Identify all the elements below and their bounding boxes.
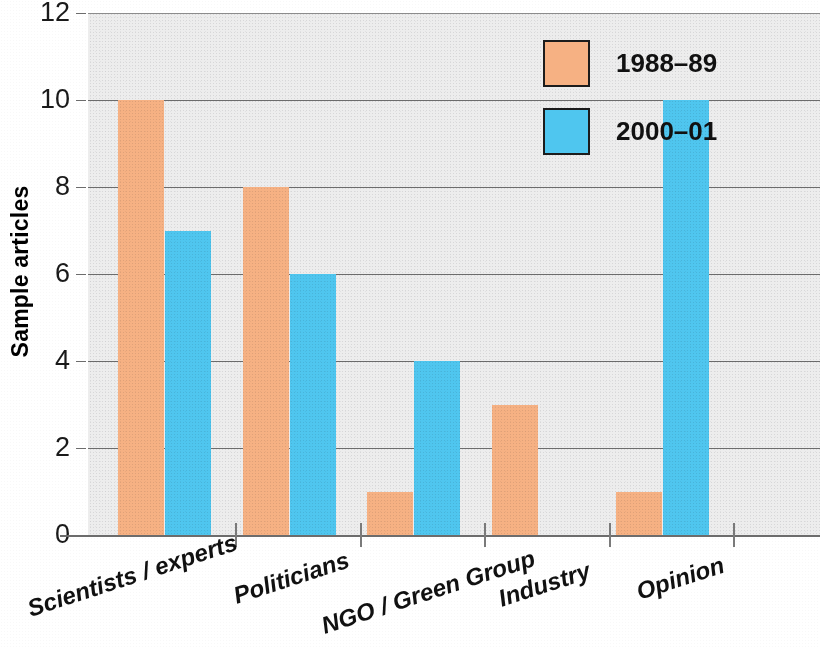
y-tick-label-2: 2 [0,434,70,461]
gridline-8 [86,187,820,188]
legend-swatch-1988-89 [543,40,590,87]
bar [118,100,164,535]
x-tick-mark [609,523,611,547]
x-axis-label-4: Opinion [633,551,728,606]
x-tick-mark [484,523,486,547]
legend-item-2000-01: 2000–01 [543,108,717,155]
x-tick-mark [360,523,362,547]
legend-label-2000-01: 2000–01 [616,116,717,147]
bar [492,405,538,536]
x-tick-mark [733,523,735,547]
bar-chart-figure: 024681012 Sample articles 1988–89 2000–0… [0,0,820,647]
bar [165,231,211,536]
plot-area [86,13,820,535]
y-tick-label-12: 12 [0,0,70,26]
gridline-10 [86,100,820,101]
bar [290,274,336,535]
bar [243,187,289,535]
x-axis-line [60,535,820,537]
gridline-12 [86,13,820,14]
legend-label-1988-89: 1988–89 [616,48,717,79]
bar [367,492,413,536]
y-axis-title: Sample articles [7,162,34,382]
y-axis-line [86,13,88,536]
bar [616,492,662,536]
legend-swatch-2000-01 [543,108,590,155]
bar [414,361,460,535]
x-axis-label-1: Politicians [230,546,353,610]
bar [663,100,709,535]
y-tick-label-10: 10 [0,86,70,113]
legend-item-1988-89: 1988–89 [543,40,717,87]
